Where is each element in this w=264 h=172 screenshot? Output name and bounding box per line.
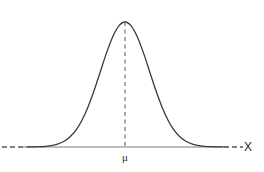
bell-curve-chart: μ X: [0, 0, 264, 172]
x-axis-label: X: [244, 140, 252, 154]
normal-distribution-figure: μ X: [0, 0, 264, 172]
mean-tick-label: μ: [122, 151, 128, 163]
